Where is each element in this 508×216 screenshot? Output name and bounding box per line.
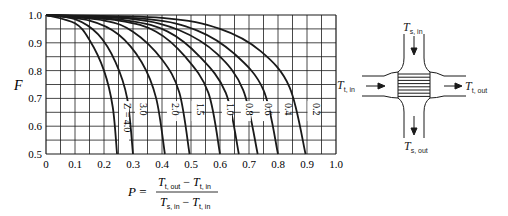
tube-wall-bottom-right [430, 96, 466, 98]
y-tick-label: 0.7 [28, 92, 42, 104]
y-tick-label: 0.9 [28, 37, 42, 49]
curve-label: 0.4 [283, 103, 294, 116]
x-tick-label: 0.3 [126, 158, 140, 170]
tube-in-arrow-icon [378, 83, 385, 89]
x-tick-label: 0 [43, 158, 49, 170]
label-tube-out: Tt, out [465, 79, 487, 94]
y-tick-label: 0.6 [28, 120, 42, 132]
curve-label: 3.0 [138, 103, 149, 116]
tube-wall-top-right [430, 72, 466, 76]
tube-bundle [398, 74, 430, 96]
tube-out-arrow-icon [455, 83, 462, 89]
x-tick-label: 0.8 [271, 158, 285, 170]
shell-wall-left [398, 34, 404, 138]
curve-label: 1.0 [225, 103, 236, 116]
x-tick-label: 0.4 [155, 158, 169, 170]
shell-out-arrow-icon [411, 128, 417, 135]
tube-wall-bottom-left [362, 96, 398, 98]
x-tick-label: 0.1 [68, 158, 82, 170]
curve-label: 0.6 [263, 103, 274, 116]
x-tick-label: 0.2 [97, 158, 111, 170]
shell-wall-right [424, 34, 430, 138]
x-tick-label: 1.0 [329, 158, 343, 170]
y-tick-label: 0.8 [28, 65, 42, 77]
label-tube-in: Tt, in [337, 78, 355, 93]
label-shell-out: Ts, out [404, 139, 428, 154]
curve-label: 0.8 [244, 103, 255, 116]
formula-denominator: Ts, in − Tt, in [160, 195, 210, 210]
label-shell-in: Ts, in [403, 20, 423, 35]
curve-label: 0.2 [311, 103, 322, 116]
chart-figure: Z = 4.03.02.01.51.00.80.60.40.2 00.10.20… [0, 0, 508, 216]
x-tick-label: 0.9 [300, 158, 314, 170]
cross-flow-exchanger-diagram [362, 34, 466, 138]
formula-numerator: Tt, out − Tt, in [158, 175, 211, 190]
y-axis-label: F [13, 78, 23, 93]
formula-lhs: P = [127, 184, 147, 199]
shell-in-arrow-icon [411, 48, 417, 55]
x-tick-label: 0.5 [184, 158, 198, 170]
tube-wall-top-left [362, 72, 398, 76]
y-tick-label: 0.5 [28, 148, 42, 160]
y-tick-label: 1.0 [28, 9, 42, 21]
curve-label: 1.5 [195, 103, 206, 116]
x-tick-label: 0.6 [213, 158, 227, 170]
x-axis-formula: P = Tt, out − Tt, in Ts, in − Tt, in [127, 175, 218, 210]
curve-label: Z = 4.0 [122, 103, 133, 132]
curve-label: 2.0 [170, 103, 181, 116]
x-tick-label: 0.7 [242, 158, 256, 170]
